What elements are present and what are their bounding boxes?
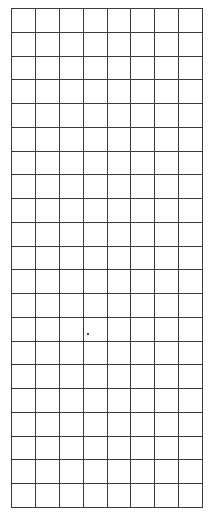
grid-cell [178, 364, 202, 388]
grid-cell [83, 364, 107, 388]
grid-cell [59, 246, 83, 270]
grid-cell [35, 127, 59, 151]
grid-cell [107, 269, 131, 293]
grid-cell [107, 127, 131, 151]
grid-cell [59, 198, 83, 222]
grid-cell [130, 103, 154, 127]
grid-cell [59, 32, 83, 56]
grid-cell [11, 293, 35, 317]
stray-dot-mark [87, 333, 89, 335]
grid-cell [154, 269, 178, 293]
grid-cell [11, 483, 35, 507]
grid-cell [154, 246, 178, 270]
grid-cell [130, 388, 154, 412]
grid-cell [35, 364, 59, 388]
grid-cell [107, 341, 131, 365]
grid-cell [107, 459, 131, 483]
grid-cell [59, 436, 83, 460]
grid-cell [83, 293, 107, 317]
grid-cell [154, 459, 178, 483]
grid-cell [35, 198, 59, 222]
grid-cell [178, 459, 202, 483]
grid-cell [107, 293, 131, 317]
grid-cell [83, 246, 107, 270]
grid-cell [130, 8, 154, 32]
grid-cell [35, 222, 59, 246]
grid-cell [11, 341, 35, 365]
grid-cell [178, 198, 202, 222]
grid-cell [11, 56, 35, 80]
grid-cell [83, 388, 107, 412]
grid-cell [130, 341, 154, 365]
grid-cell [35, 293, 59, 317]
grid-cell [178, 341, 202, 365]
grid-cell [107, 56, 131, 80]
grid-cell [107, 8, 131, 32]
grid-cell [59, 127, 83, 151]
grid-cell [35, 8, 59, 32]
grid-cell [154, 8, 178, 32]
grid-cell [107, 32, 131, 56]
grid-cell [11, 8, 35, 32]
grid-cell [11, 459, 35, 483]
grid-cell [83, 269, 107, 293]
grid-cell [154, 293, 178, 317]
grid-cell [83, 436, 107, 460]
grid-cell [154, 103, 178, 127]
grid-cell [130, 151, 154, 175]
grid-cell [107, 151, 131, 175]
grid-cell [178, 436, 202, 460]
grid-cell [59, 364, 83, 388]
grid-cell [83, 317, 107, 341]
grid-cell [107, 103, 131, 127]
grid-cell [178, 103, 202, 127]
grid-cell [11, 127, 35, 151]
grid-cell [130, 246, 154, 270]
grid-cell [107, 436, 131, 460]
grid-cell [107, 388, 131, 412]
grid-cell [107, 174, 131, 198]
grid-cell [130, 32, 154, 56]
grid-cell [83, 174, 107, 198]
grid-cell [178, 32, 202, 56]
grid-cell [154, 436, 178, 460]
grid-cell [178, 246, 202, 270]
grid-cell [130, 127, 154, 151]
grid-cell [11, 79, 35, 103]
grid-cell [83, 103, 107, 127]
grid-cell [35, 341, 59, 365]
grid-cell [83, 412, 107, 436]
grid-cell [83, 8, 107, 32]
grid-cell [11, 269, 35, 293]
grid-cell [130, 317, 154, 341]
grid-cell [154, 32, 178, 56]
grid-cell [178, 388, 202, 412]
grid-cell [154, 151, 178, 175]
grid-cell [130, 293, 154, 317]
grid-cell [107, 483, 131, 507]
grid-cell [130, 174, 154, 198]
grid-cell [154, 388, 178, 412]
grid-cell [35, 103, 59, 127]
grid-cell [130, 222, 154, 246]
grid-cell [59, 174, 83, 198]
grid-cell [35, 246, 59, 270]
grid-cell [107, 198, 131, 222]
grid-cell [59, 269, 83, 293]
grid-cell [178, 293, 202, 317]
grid-cell [59, 222, 83, 246]
grid-cell [35, 56, 59, 80]
grid-cell [154, 364, 178, 388]
grid-cell [11, 32, 35, 56]
grid-cell [130, 79, 154, 103]
grid-cell [83, 151, 107, 175]
grid-cell [83, 56, 107, 80]
grid-cell [59, 412, 83, 436]
grid-cell [130, 436, 154, 460]
grid-cell [178, 79, 202, 103]
grid-cell [59, 56, 83, 80]
grid-cell [83, 483, 107, 507]
grid-cell [107, 79, 131, 103]
grid-cell [178, 56, 202, 80]
grid-cell [11, 174, 35, 198]
